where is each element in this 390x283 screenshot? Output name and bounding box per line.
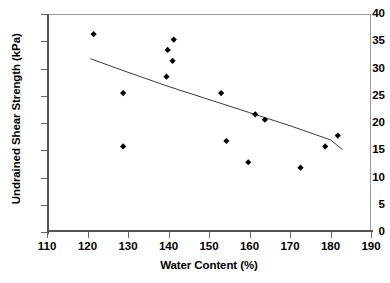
y-tick-label: 10 bbox=[347, 172, 385, 184]
data-point-marker bbox=[322, 143, 328, 149]
data-point-marker bbox=[165, 47, 171, 53]
data-point-marker bbox=[223, 138, 229, 144]
data-point-marker bbox=[120, 90, 126, 96]
data-point-marker bbox=[245, 159, 251, 165]
y-tick-mark bbox=[41, 96, 47, 97]
x-tick-mark bbox=[128, 232, 129, 238]
data-point-marker bbox=[218, 90, 224, 96]
x-tick-label: 130 bbox=[108, 241, 148, 253]
data-point-marker bbox=[163, 74, 169, 80]
data-point-marker bbox=[169, 58, 175, 64]
data-point-marker bbox=[90, 31, 96, 37]
y-tick-mark bbox=[41, 205, 47, 206]
y-tick-mark bbox=[41, 178, 47, 179]
y-tick-mark bbox=[41, 69, 47, 70]
x-tick-mark bbox=[250, 232, 251, 238]
y-tick-mark bbox=[41, 123, 47, 124]
x-tick-mark bbox=[209, 232, 210, 238]
x-tick-mark bbox=[290, 232, 291, 238]
y-tick-label: 5 bbox=[347, 199, 385, 211]
x-axis-title: Water Content (%) bbox=[47, 260, 371, 272]
y-tick-label: 35 bbox=[347, 35, 385, 47]
trend-line bbox=[90, 59, 342, 150]
x-tick-label: 170 bbox=[270, 241, 310, 253]
data-point-marker bbox=[171, 37, 177, 43]
x-tick-label: 110 bbox=[27, 241, 67, 253]
x-tick-label: 190 bbox=[351, 241, 390, 253]
x-tick-label: 140 bbox=[149, 241, 189, 253]
y-tick-label: 0 bbox=[347, 226, 385, 238]
x-tick-label: 160 bbox=[230, 241, 270, 253]
y-tick-label: 30 bbox=[347, 63, 385, 75]
plot-data-layer bbox=[47, 14, 371, 232]
x-tick-mark bbox=[88, 232, 89, 238]
data-point-marker bbox=[262, 117, 268, 123]
x-tick-label: 150 bbox=[189, 241, 229, 253]
y-tick-mark bbox=[41, 41, 47, 42]
x-tick-mark bbox=[371, 232, 372, 238]
y-tick-label: 25 bbox=[347, 90, 385, 102]
y-tick-mark bbox=[41, 14, 47, 15]
x-tick-label: 180 bbox=[311, 241, 351, 253]
data-point-marker bbox=[335, 132, 341, 138]
data-point-marker bbox=[252, 111, 258, 117]
y-tick-mark bbox=[41, 150, 47, 151]
y-tick-label: 15 bbox=[347, 144, 385, 156]
x-tick-mark bbox=[47, 232, 48, 238]
y-axis-title: Undrained Shear Strength (kPa) bbox=[11, 9, 23, 229]
y-tick-label: 20 bbox=[347, 117, 385, 129]
data-point-marker bbox=[297, 165, 303, 171]
x-tick-label: 120 bbox=[68, 241, 108, 253]
y-tick-label: 40 bbox=[347, 8, 385, 20]
data-point-marker bbox=[120, 143, 126, 149]
x-tick-mark bbox=[169, 232, 170, 238]
x-tick-mark bbox=[331, 232, 332, 238]
